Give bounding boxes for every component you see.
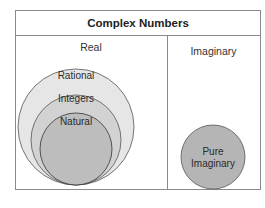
pure-imaginary-set: Pure Imaginary — [181, 125, 245, 189]
integers-label: Integers — [58, 93, 94, 104]
pure-imaginary-label-line2: Imaginary — [191, 158, 235, 169]
pure-imaginary-label-line1: Pure — [202, 146, 224, 157]
rational-label: Rational — [58, 70, 95, 81]
pure-imaginary-circle — [181, 125, 245, 189]
natural-set: Natural — [40, 113, 112, 185]
venn-diagram: Rational Integers Natural Pure Imaginary — [0, 0, 265, 208]
natural-label: Natural — [60, 116, 92, 127]
